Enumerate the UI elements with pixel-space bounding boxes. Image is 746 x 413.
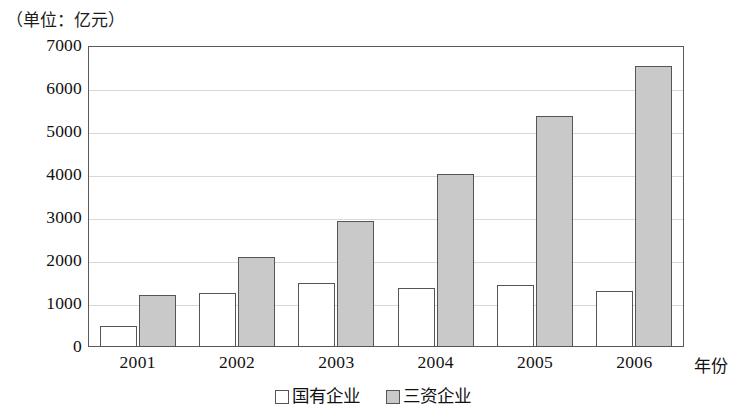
bar-三资企业-2003 bbox=[337, 221, 374, 347]
bar-国有企业-2001 bbox=[100, 326, 137, 348]
x-axis-title: 年份 bbox=[694, 352, 728, 377]
bar-三资企业-2002 bbox=[238, 257, 275, 347]
bar-国有企业-2003 bbox=[298, 283, 335, 347]
x-axis: 200120022003200420052006 bbox=[88, 352, 684, 378]
bar-国有企业-2002 bbox=[199, 293, 236, 347]
legend-item-label: 三资企业 bbox=[403, 388, 471, 406]
x-tick-label: 2006 bbox=[616, 352, 652, 373]
legend-item-label: 国有企业 bbox=[292, 388, 360, 406]
bar-国有企业-2006 bbox=[596, 291, 633, 347]
x-tick-label: 2003 bbox=[318, 352, 354, 373]
bar-国有企业-2005 bbox=[497, 285, 534, 347]
x-tick-label: 2005 bbox=[517, 352, 553, 373]
bar-三资企业-2005 bbox=[536, 116, 573, 347]
legend-item-1: 国有企业 bbox=[275, 388, 360, 406]
x-tick-label: 2001 bbox=[120, 352, 156, 373]
bar-国有企业-2004 bbox=[398, 288, 435, 347]
x-tick-label: 2002 bbox=[219, 352, 255, 373]
x-tick-label: 2004 bbox=[418, 352, 454, 373]
gray-square-icon bbox=[386, 390, 400, 404]
bar-三资企业-2001 bbox=[139, 295, 176, 347]
legend-item-2: 三资企业 bbox=[386, 388, 471, 406]
bar-三资企业-2004 bbox=[437, 174, 474, 347]
bar-三资企业-2006 bbox=[635, 66, 672, 347]
white-square-icon bbox=[275, 390, 289, 404]
chart-legend: 国有企业三资企业 bbox=[0, 388, 746, 406]
